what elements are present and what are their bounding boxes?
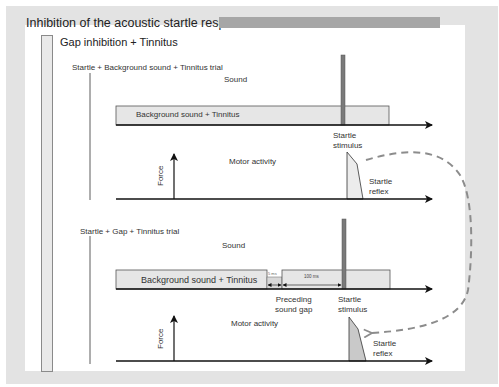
trial2-sound-label: Sound: [222, 241, 245, 251]
trial1-motor-label: Motor activity: [229, 157, 276, 167]
trial1-background-label: Background sound + Tinnitus: [136, 110, 239, 120]
trial2-motor-label: Motor activity: [231, 319, 278, 329]
gap-label-line1: Preceding: [275, 295, 312, 305]
diagram-canvas: [0, 0, 499, 387]
trial2-force-label: Force: [156, 329, 166, 349]
interval-label: 100 ms: [304, 274, 319, 279]
trial2-reflex-label-line1: Startle: [373, 339, 396, 349]
trial2-reflex-label-line2: reflex: [373, 349, 396, 359]
trial2-background-box-after-gap: [282, 270, 390, 289]
trial1-sound-label: Sound: [224, 75, 247, 85]
trial2-label: Startle + Gap + Tinnitus trial: [80, 227, 179, 237]
gap-label: Preceding sound gap: [275, 295, 312, 314]
trial2-stimulus-label: Startle stimulus: [338, 295, 367, 314]
trial2-startle-reflex-shape: [349, 317, 366, 361]
trial2-startle-stimulus-bar: [342, 219, 346, 289]
trial1-stimulus-label: Startle stimulus: [333, 131, 362, 150]
trial2-reflex-label: Startle reflex: [373, 339, 396, 358]
trial1-reflex-label: Startle reflex: [369, 177, 392, 196]
trial1-startle-reflex-shape: [347, 152, 363, 199]
trial1-force-label: Force: [156, 166, 166, 186]
trial2-background-label: Background sound + Tinnitus: [141, 275, 257, 286]
gap-duration-label: 5 ms: [268, 272, 277, 277]
trial1-reflex-label-line2: reflex: [369, 187, 392, 197]
trial2-stimulus-label-line1: Startle: [338, 295, 367, 305]
trial2-sound-gap: [267, 277, 282, 289]
trial2-stimulus-label-line2: stimulus: [338, 305, 367, 315]
trial1-startle-stimulus-bar: [341, 55, 345, 125]
trial1-stimulus-label-line1: Startle: [333, 131, 362, 141]
trial1-label: Startle + Background sound + Tinnitus tr…: [72, 63, 223, 73]
trial1-stimulus-label-line2: stimulus: [333, 141, 362, 151]
trial1-reflex-label-line1: Startle: [369, 177, 392, 187]
gap-label-line2: sound gap: [275, 305, 312, 315]
